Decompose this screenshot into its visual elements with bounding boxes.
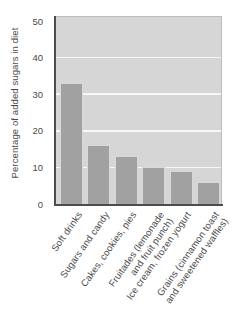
x-axis-line <box>54 204 223 206</box>
bar-fruitades-lemonade <box>142 167 165 204</box>
bar-sugars-and-candy <box>87 145 110 204</box>
bar-soft-drinks <box>60 83 83 204</box>
y-axis-title: Percentage of added sugars in diet <box>9 28 20 179</box>
bar-cakes-cookies-pies <box>115 156 138 204</box>
y-tick-label-20: 20 <box>32 125 43 136</box>
gridline-40 <box>55 57 221 59</box>
y-axis-line <box>54 16 56 206</box>
y-tick-label-10: 10 <box>32 162 43 173</box>
y-tick-label-50: 50 <box>32 16 43 27</box>
plot-area <box>55 16 222 205</box>
y-tick-label-0: 0 <box>38 199 43 210</box>
bar-chart-figure: Percentage of added sugars in diet 01020… <box>0 0 234 334</box>
bar-ice-cream-frozen-yogurt <box>170 171 193 204</box>
y-tick-label-30: 30 <box>32 89 43 100</box>
y-tick-label-40: 40 <box>32 52 43 63</box>
bar-grains-cinnamon-toast <box>197 182 220 204</box>
